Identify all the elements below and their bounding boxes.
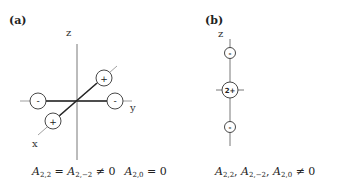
charge-plus-lower: + <box>45 113 61 129</box>
charge-2plus-center: 2+ <box>222 82 238 98</box>
charge-minus-bottom: - <box>225 122 236 133</box>
charge-minus-top: - <box>225 48 236 59</box>
svg-text:2+: 2+ <box>225 87 236 95</box>
z-axis-label-b: z <box>218 28 223 39</box>
panel-b-label: (b) <box>205 14 223 27</box>
charge-plus-upper: + <box>96 70 112 86</box>
charge-minus-left: - <box>30 93 46 109</box>
panel-a-equation: A2,2 = A2,−2 ≠ 0A2,0 = 0 <box>31 165 167 179</box>
panel-a: (a) z y x - - + + A2 <box>9 14 167 179</box>
svg-text:-: - <box>113 96 116 106</box>
svg-text:+: + <box>100 74 108 84</box>
y-axis-label: y <box>129 102 136 113</box>
charge-minus-right: - <box>107 93 123 109</box>
svg-text:-: - <box>36 96 39 106</box>
x-axis-label: x <box>32 138 38 149</box>
svg-text:-: - <box>229 124 232 132</box>
svg-text:+: + <box>49 117 57 127</box>
svg-text:-: - <box>229 50 232 58</box>
diagram-canvas: (a) z y x - - + + A2 <box>0 0 339 188</box>
z-axis-label: z <box>66 27 71 38</box>
panel-a-label: (a) <box>9 14 27 27</box>
panel-b-equation: A2,2, A2,−2, A2,0 ≠ 0 <box>214 165 315 179</box>
panel-b: (b) z - 2+ - A2,2, A2,−2, A2,0 ≠ 0 <box>205 14 315 179</box>
x-bond <box>59 83 97 116</box>
